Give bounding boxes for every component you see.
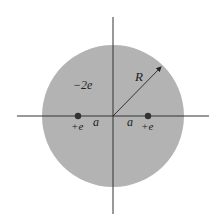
left-distance-label: a [93,115,99,129]
disk-charge-label: −2e [73,78,93,92]
charge-distribution-diagram: −2e R +e +e a a [0,0,218,222]
radius-label: R [134,69,143,84]
right-distance-label: a [127,115,133,129]
right-point-charge [145,113,151,119]
left-charge-label: +e [71,120,83,132]
right-charge-label: +e [141,120,153,132]
left-point-charge [75,113,81,119]
